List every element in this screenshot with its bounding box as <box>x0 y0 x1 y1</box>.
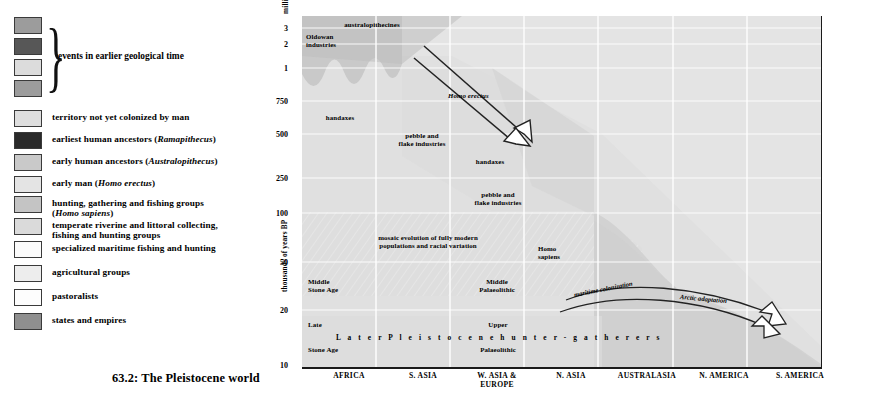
legend-item-agricultural: agricultural groups <box>14 265 130 282</box>
annotation-upper: Upper <box>488 321 507 329</box>
figure-root: } events in earlier geological time terr… <box>0 0 881 407</box>
annotation-handaxes-weurope: handaxes <box>476 158 504 166</box>
legend-item-label: agricultural groups <box>52 265 130 277</box>
y-tick: 2 <box>284 40 288 49</box>
annotation-australopithecines: australopithecines <box>344 21 399 29</box>
legend-brace-item-4 <box>14 80 42 97</box>
legend-item-label: temperate riverine and littoral collecti… <box>52 218 218 241</box>
y-tick: 20 <box>280 306 288 315</box>
y-tick: 1 <box>284 64 288 73</box>
legend-item-homo-erectus: early man (Homo erectus) <box>14 176 155 193</box>
legend-swatch <box>14 154 42 171</box>
legend-swatch <box>14 196 42 213</box>
legend-swatch <box>14 313 42 330</box>
x-axis-label-s-america: S. AMERICA <box>776 372 824 381</box>
legend-item-australopithecus: early human ancestors (Australopithecus) <box>14 154 218 171</box>
annotation-middle-palaeolithic: Middle Palaeolithic <box>479 278 515 294</box>
x-axis-label-africa: AFRICA <box>333 372 365 381</box>
y-tick: 250 <box>276 174 288 183</box>
annotation-handaxes-africa: handaxes <box>326 114 354 122</box>
annotation-pebble-weurope: pebble and flake industries <box>475 191 522 207</box>
annotation-homo-sapiens: Homo sapiens <box>538 245 560 261</box>
legend-item-states: states and empires <box>14 313 126 330</box>
legend-item-hunting: hunting, gathering and fishing groups(Ho… <box>14 196 204 219</box>
legend-item-maritime: specialized maritime fishing and hunting <box>14 241 216 258</box>
x-axis-label-w-asia-europe: W. ASIA & EUROPE <box>477 372 516 389</box>
annotation-middle-stone-age: Middle Stone Age <box>308 278 338 294</box>
y-axis-label-upper: millions of years BP <box>282 0 290 14</box>
legend-item-label: pastoralists <box>52 289 98 301</box>
legend-item-label: territory not yet colonized by man <box>52 110 189 122</box>
x-axis-line <box>302 367 822 369</box>
legend-swatch <box>14 110 42 127</box>
legend-swatch <box>14 289 42 306</box>
y-tick: 100 <box>276 209 288 218</box>
annotation-oldowan: Oldowan industries <box>306 33 336 49</box>
legend-swatch <box>14 176 42 193</box>
legend-brace-item-2 <box>14 38 42 55</box>
legend-item-label: states and empires <box>52 313 126 325</box>
annotation-pebble-sasia: pebble and flake industries <box>399 132 446 148</box>
legend-item-ramapithecus: earliest human ancestors (Ramapithecus) <box>14 132 216 149</box>
legend-item-label: early man (Homo erectus) <box>52 176 155 188</box>
annotation-palaeolithic: Palaeolithic <box>480 346 516 354</box>
legend: } events in earlier geological time terr… <box>0 0 272 407</box>
legend-item-territory: territory not yet colonized by man <box>14 110 189 127</box>
legend-swatch <box>14 38 42 55</box>
legend-swatch <box>14 132 42 149</box>
y-tick: 500 <box>276 130 288 139</box>
legend-swatch <box>14 241 42 258</box>
legend-item-label: hunting, gathering and fishing groups(Ho… <box>52 196 204 219</box>
y-tick: 750 <box>276 97 288 106</box>
legend-item-temperate: temperate riverine and littoral collecti… <box>14 218 218 241</box>
y-axis-ticks: 3 2 1 750 500 250 100 50 20 10 <box>250 16 296 367</box>
annotation-later-pleistocene: L a t e r P l e i s t o c e n e h u n t … <box>336 334 662 342</box>
chart-svg <box>302 16 821 367</box>
legend-item-label: earliest human ancestors (Ramapithecus) <box>52 132 216 144</box>
legend-swatch <box>14 218 42 235</box>
legend-item-label: early human ancestors (Australopithecus) <box>52 154 218 166</box>
x-axis-label-n-asia: N. ASIA <box>556 372 585 381</box>
legend-swatch <box>14 265 42 282</box>
annotation-homo-erectus: Homo erectus <box>448 92 489 100</box>
legend-swatch <box>14 59 42 76</box>
legend-item-pastoralists: pastoralists <box>14 289 98 306</box>
y-axis-label-lower: thousands of years BP <box>281 220 289 292</box>
annotation-stone-age: Stone Age <box>308 346 338 354</box>
legend-swatch <box>14 17 42 34</box>
legend-brace-label: events in earlier geological time <box>58 51 184 61</box>
chart-plot-area: australopithecines Oldowan industries ha… <box>302 16 822 367</box>
y-tick: 3 <box>284 24 288 33</box>
annotation-mosaic-evolution: mosaic evolution of fully modern populat… <box>378 234 478 250</box>
figure-title: 63.2: The Pleistocene world <box>112 371 260 386</box>
legend-brace-item-3 <box>14 59 42 76</box>
x-axis-label-australasia: AUSTRALASIA <box>618 372 676 381</box>
y-tick: 10 <box>280 361 288 370</box>
legend-item-label: specialized maritime fishing and hunting <box>52 241 216 253</box>
x-axis-label-s-asia: S. ASIA <box>409 372 437 381</box>
annotation-late: Late <box>308 321 322 329</box>
legend-brace-item-1 <box>14 17 42 34</box>
x-axis-label-n-america: N. AMERICA <box>699 372 749 381</box>
legend-swatch <box>14 80 42 97</box>
